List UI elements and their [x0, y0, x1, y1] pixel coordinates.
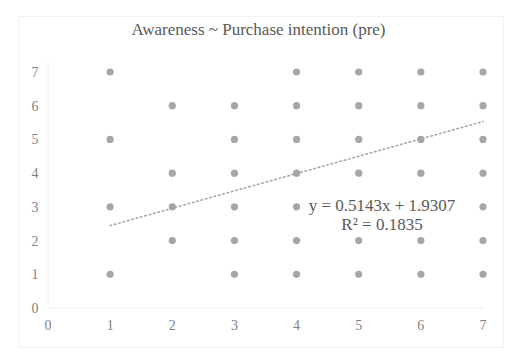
x-tick-label: 6: [417, 318, 424, 333]
x-tick-label: 3: [231, 318, 238, 333]
trendline-equation: y = 0.5143x + 1.9307: [300, 196, 464, 215]
y-tick-label: 0: [32, 301, 39, 316]
x-tick-label: 4: [293, 318, 300, 333]
data-point: [417, 271, 424, 278]
data-point: [169, 170, 176, 177]
data-point: [479, 68, 486, 75]
data-point: [355, 136, 362, 143]
data-point: [417, 68, 424, 75]
data-point: [479, 102, 486, 109]
plot-area: 0123456701234567: [0, 0, 517, 358]
x-tick-label: 0: [45, 318, 52, 333]
data-point: [355, 237, 362, 244]
data-point: [479, 271, 486, 278]
y-tick-label: 4: [32, 166, 39, 181]
data-point: [107, 136, 114, 143]
data-point: [107, 203, 114, 210]
data-point: [479, 203, 486, 210]
y-tick-label: 3: [32, 200, 39, 215]
data-point: [169, 237, 176, 244]
x-tick-label: 7: [480, 318, 487, 333]
data-point: [479, 237, 486, 244]
data-point: [417, 237, 424, 244]
x-tick-label: 2: [169, 318, 176, 333]
x-tick-label: 5: [355, 318, 362, 333]
data-point: [231, 102, 238, 109]
data-point: [107, 68, 114, 75]
y-tick-label: 5: [32, 132, 39, 147]
data-point: [355, 68, 362, 75]
data-point: [355, 271, 362, 278]
data-point: [293, 237, 300, 244]
data-point: [107, 271, 114, 278]
data-point: [231, 136, 238, 143]
r-squared: R² = 0.1835: [300, 215, 464, 234]
data-point: [417, 102, 424, 109]
data-point: [293, 68, 300, 75]
y-tick-label: 1: [32, 267, 39, 282]
data-point: [293, 136, 300, 143]
y-tick-label: 6: [32, 99, 39, 114]
y-tick-label: 2: [32, 234, 39, 249]
data-point: [231, 170, 238, 177]
data-point: [355, 170, 362, 177]
data-point: [479, 170, 486, 177]
y-tick-label: 7: [32, 65, 39, 80]
data-point: [479, 136, 486, 143]
data-point: [293, 271, 300, 278]
data-point: [169, 102, 176, 109]
trendline-equation-label: y = 0.5143x + 1.9307 R² = 0.1835: [300, 196, 464, 234]
data-point: [231, 237, 238, 244]
data-point: [417, 170, 424, 177]
data-point: [355, 102, 362, 109]
data-point: [293, 102, 300, 109]
data-point: [231, 271, 238, 278]
data-point: [231, 203, 238, 210]
x-tick-label: 1: [107, 318, 114, 333]
